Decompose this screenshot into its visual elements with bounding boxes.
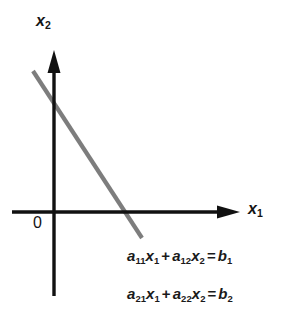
equation-row-1: a11x1+a12x2=b1 [127,247,232,264]
x-axis-label: x1 [248,200,263,218]
eq1-a11-subscript: 11 [135,255,145,266]
eq2-equals-operator: = [205,285,218,302]
y-axis-label-subscript: 2 [45,19,51,31]
eq2-a22-subscript: 22 [181,293,192,304]
eq2-x2-subscript: 2 [200,293,205,304]
coordinate-plane-svg [0,0,288,323]
eq1-x2-var: x [191,247,199,264]
y-axis-label: x2 [36,12,51,30]
eq2-b2-coef: b [218,285,227,302]
eq2-a21-subscript: 21 [135,293,146,304]
eq2-x1-subscript: 1 [154,293,159,304]
x-axis-arrowhead [217,206,240,219]
eq2-a22-coef: a [173,285,181,302]
equation-row-2: a21x1+a22x2=b2 [127,285,233,302]
eq1-b1-coef: b [218,247,227,264]
eq1-plus-operator: + [159,247,172,264]
eq1-x1-subscript: 1 [154,255,159,266]
origin-label: 0 [33,214,42,232]
eq1-x1-var: x [146,247,154,264]
x-axis-label-subscript: 1 [257,207,263,219]
eq1-b1-subscript: 1 [227,255,232,266]
eq1-a12-coef: a [172,247,180,264]
linear-system-figure: x2 x1 0 a11x1+a12x2=b1 a21x1+a22x2=b2 [0,0,288,323]
eq1-a12-subscript: 12 [181,255,192,266]
eq2-b2-subscript: 2 [228,293,233,304]
y-axis-arrowhead [48,50,61,73]
eq2-x2-var: x [192,285,200,302]
y-axis-label-base: x [36,12,45,29]
eq1-x2-subscript: 2 [200,255,205,266]
eq1-equals-operator: = [205,247,218,264]
x-axis-label-base: x [248,200,257,217]
eq2-plus-operator: + [160,285,173,302]
